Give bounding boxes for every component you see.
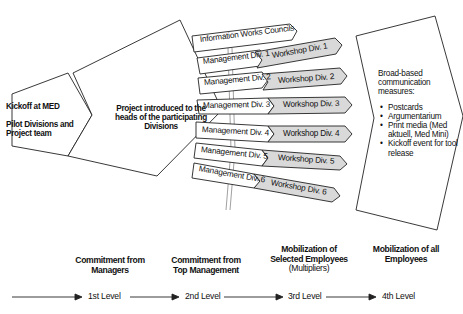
stage-4: Mobilization of all Employees <box>366 245 446 264</box>
broad-item-1: Postcards <box>388 103 463 112</box>
stage-1: Commitment from Managers <box>60 256 160 275</box>
workshop-label-3: Workshop Div. 3 <box>283 99 339 109</box>
level-3-label: 3rd Level <box>288 292 322 302</box>
broad-item-4: Kickoff event for tool release <box>388 139 463 157</box>
kickoff-box: Kickoff at MED Pilot Divisions and Proje… <box>6 102 88 139</box>
stage-2-title: Commitment from Top Management <box>171 255 241 275</box>
stage-3: Mobilization of Selected Employees (Mult… <box>264 245 354 274</box>
broad-communication-box: Broad-based communication measures: Post… <box>378 69 463 158</box>
level-2-label: 2nd Level <box>185 292 220 302</box>
stage-1-title: Commitment from Managers <box>75 255 145 275</box>
project-box-text: Project introduced to the heads of the p… <box>113 104 209 132</box>
stage-2: Commitment from Top Management <box>164 256 248 275</box>
stage-3-title: Mobilization of Selected Employees <box>270 244 348 264</box>
level-1-label: 1st Level <box>88 292 121 302</box>
broad-item-3: Print media (Med aktuell, Med Mini) <box>388 121 463 139</box>
management-label-3: Management Div. 3 <box>203 100 270 110</box>
workshop-label-4: Workshop Div. 4 <box>283 129 339 138</box>
broad-list: Postcards Argumentarium Print media (Med… <box>378 103 463 158</box>
kickoff-line-1: Kickoff at MED <box>6 102 88 111</box>
level-4-label: 4th Level <box>382 292 415 302</box>
kickoff-line-2: Pilot Divisions and Project team <box>6 120 88 138</box>
broad-heading: Broad-based communication measures: <box>378 69 463 97</box>
broad-item-2: Argumentarium <box>388 112 463 121</box>
stage-4-title: Mobilization of all Employees <box>373 244 439 264</box>
stage-3-sub: (Multipliers) <box>264 264 354 274</box>
